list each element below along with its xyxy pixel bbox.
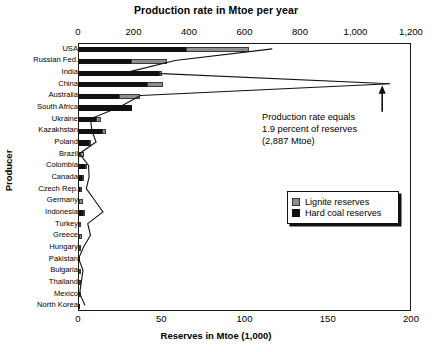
category-label: Brazil	[0, 150, 78, 158]
category-label: Mexico	[0, 290, 78, 298]
annotation-line: (2,887 Mtoe)	[262, 136, 412, 148]
bar-hard-coal	[79, 59, 131, 64]
top-axis-tick-label: 800	[292, 26, 308, 37]
top-axis-tick-label: 1,200	[399, 26, 423, 37]
bottom-axis-tick-label: 150	[320, 313, 336, 324]
category-label: South Africa	[0, 103, 78, 111]
top-axis-tick-label: 200	[126, 26, 142, 37]
bar-lignite	[119, 94, 140, 99]
category-label: Germany	[0, 196, 78, 204]
bottom-axis-tick-label: 100	[237, 313, 253, 324]
top-axis-tick-label: 0	[75, 26, 80, 37]
bar-lignite	[79, 280, 81, 285]
category-label: Thailand	[0, 278, 78, 286]
category-label: Russian Fed.	[0, 56, 78, 64]
bottom-axis-tick-label: 200	[403, 313, 419, 324]
bar-lignite	[83, 210, 85, 215]
bar-lignite	[79, 292, 81, 297]
bar-lignite	[147, 82, 163, 87]
bar-lignite	[89, 140, 91, 145]
bar-hard-coal	[79, 117, 96, 122]
chart-top-axis-title: Production rate in Mtoe per year	[0, 4, 432, 16]
bar-lignite	[79, 234, 82, 239]
category-label: Indonesia	[0, 208, 78, 216]
category-label: Poland	[0, 138, 78, 146]
bar-lignite	[159, 71, 162, 76]
category-label: Turkey	[0, 220, 78, 228]
top-axis-tick-label: 400	[181, 26, 197, 37]
lignite-swatch-icon	[292, 198, 300, 206]
bar-lignite	[102, 129, 105, 134]
bar-lignite	[79, 245, 81, 250]
legend-item-hard-coal: Hard coal reserves	[292, 208, 394, 218]
category-label: USA	[0, 45, 78, 53]
category-label: China	[0, 80, 78, 88]
legend-label-lignite: Lignite reserves	[305, 197, 369, 207]
bar-hard-coal	[79, 105, 132, 110]
bar-lignite	[186, 47, 249, 52]
legend-item-lignite: Lignite reserves	[292, 197, 394, 207]
annotation-text: Production rate equals1.9 percent of res…	[262, 112, 412, 148]
category-label: Czech Rep.	[0, 185, 78, 193]
bar-hard-coal	[79, 82, 147, 87]
plot-area	[78, 43, 411, 311]
bar-lignite	[131, 59, 168, 64]
category-label: Bulgaria	[0, 266, 78, 274]
bar-hard-coal	[79, 47, 186, 52]
bottom-axis-tick-label: 50	[156, 313, 167, 324]
bar-hard-coal	[79, 71, 159, 76]
category-label: Kazakhstan	[0, 126, 78, 134]
annotation-line: 1.9 percent of reserves	[262, 124, 412, 136]
bar-lignite	[79, 199, 83, 204]
top-axis-tick-label: 600	[237, 26, 253, 37]
chart-figure: Production rate in Mtoe per year Reserve…	[0, 0, 432, 352]
category-label: Pakistan	[0, 255, 78, 263]
bar-hard-coal	[79, 94, 119, 99]
bar-lignite	[85, 164, 87, 169]
category-label: Canada	[0, 173, 78, 181]
bar-lignite	[79, 269, 81, 274]
category-label: Greece	[0, 231, 78, 239]
bar-hard-coal	[79, 129, 102, 134]
top-axis-tick-label: 1,000	[344, 26, 368, 37]
bar-lignite	[79, 152, 84, 157]
bar-lignite	[79, 222, 81, 227]
category-label: Australia	[0, 91, 78, 99]
legend-label-hard-coal: Hard coal reserves	[305, 208, 381, 218]
bar-lignite	[80, 187, 82, 192]
annotation-line: Production rate equals	[262, 112, 412, 124]
bar-lignite	[96, 117, 101, 122]
hard-coal-swatch-icon	[292, 209, 300, 217]
category-label-column: USARussian Fed.IndiaChinaAustraliaSouth …	[0, 43, 78, 311]
chart-bottom-axis-title: Reserves in Mtoe (1,000)	[0, 330, 432, 341]
bottom-axis-tick-label: 0	[75, 313, 80, 324]
category-label: India	[0, 68, 78, 76]
category-label: Ukraine	[0, 115, 78, 123]
bar-lignite	[82, 175, 84, 180]
chart-legend: Lignite reserves Hard coal reserves	[287, 191, 399, 224]
category-label: Hungary	[0, 243, 78, 251]
category-label: Colombia	[0, 161, 78, 169]
bar-hard-coal	[79, 140, 89, 145]
category-label: North Korea	[0, 301, 78, 309]
